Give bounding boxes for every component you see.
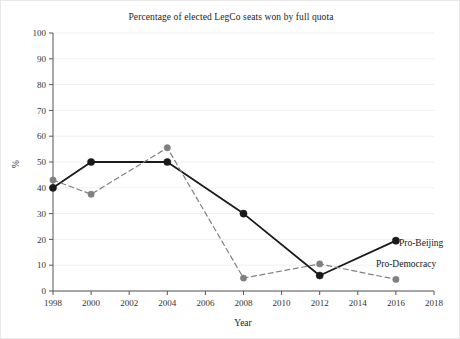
y-tick-label: 20	[37, 235, 47, 245]
x-tick-label: 2000	[82, 298, 101, 308]
data-point-marker	[393, 276, 399, 282]
chart-figure: Percentage of elected LegCo seats won by…	[0, 0, 460, 339]
y-axis-title: %	[11, 160, 21, 168]
x-tick-label: 2008	[235, 298, 254, 308]
y-tick-label: 60	[37, 131, 47, 141]
x-tick-label: 1998	[44, 298, 63, 308]
data-point-marker	[88, 158, 95, 165]
data-point-marker	[50, 177, 56, 183]
x-tick-group: 1998200020022004200620082010201220142016…	[44, 291, 444, 308]
line-chart-plot: 0102030405060708090100 19982000200220042…	[1, 1, 460, 339]
y-tick-label: 100	[33, 28, 47, 38]
data-point-marker	[88, 191, 94, 197]
x-axis-title: Year	[234, 318, 252, 328]
x-tick-label: 2002	[120, 298, 138, 308]
x-tick-label: 2006	[196, 298, 215, 308]
x-tick-label: 2018	[425, 298, 444, 308]
series-label-pro-democracy: Pro-Democracy	[376, 259, 436, 269]
data-point-marker	[240, 275, 246, 281]
y-tick-label: 40	[37, 183, 47, 193]
x-tick-label: 2016	[387, 298, 406, 308]
y-tick-label: 90	[37, 54, 47, 64]
data-point-marker	[317, 261, 323, 267]
data-point-marker	[49, 184, 56, 191]
data-point-marker	[164, 158, 171, 165]
x-tick-label: 2012	[311, 298, 329, 308]
y-tick-label: 10	[37, 260, 47, 270]
data-point-marker	[240, 210, 247, 217]
x-tick-label: 2004	[158, 298, 177, 308]
y-tick-group: 0102030405060708090100	[33, 28, 54, 296]
y-tick-label: 70	[37, 106, 47, 116]
series-line-pro-beijing	[53, 162, 396, 276]
y-tick-label: 50	[37, 157, 47, 167]
x-tick-label: 2014	[349, 298, 368, 308]
y-tick-label: 80	[37, 80, 47, 90]
data-point-marker	[316, 272, 323, 279]
data-point-marker	[164, 145, 170, 151]
series-label-pro-beijing: Pro-Beijing	[399, 238, 444, 248]
x-tick-label: 2010	[273, 298, 292, 308]
y-tick-label: 30	[37, 209, 47, 219]
y-tick-label: 0	[42, 286, 47, 296]
